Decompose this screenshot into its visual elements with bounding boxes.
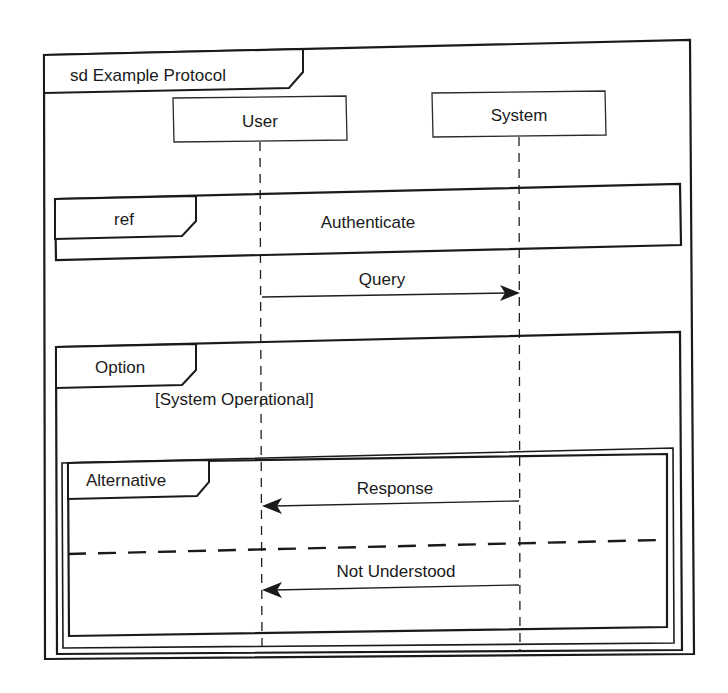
ref-fragment: ref Authenticate	[55, 184, 681, 260]
message-query-line	[262, 293, 508, 297]
lifeline-system-line	[519, 137, 520, 650]
sequence-diagram: sd Example Protocol User System ref Auth…	[0, 0, 728, 693]
message-not-understood-line	[274, 585, 519, 590]
message-response-label: Response	[357, 479, 434, 498]
message-response-line	[274, 501, 519, 506]
alternative-operator-label: Alternative	[86, 471, 166, 490]
message-query: Query	[262, 270, 520, 301]
ref-fragment-label: Authenticate	[321, 213, 416, 232]
ref-operator-label: ref	[114, 210, 134, 229]
lifeline-system-label: System	[491, 106, 548, 125]
lifeline-user: User	[173, 96, 347, 142]
message-not-understood-label: Not Understood	[336, 562, 455, 581]
message-response: Response	[262, 479, 519, 514]
sd-frame-title: sd Example Protocol	[70, 66, 226, 85]
option-guard-label: [System Operational]	[155, 390, 314, 409]
lifeline-user-label: User	[242, 112, 278, 131]
message-not-understood: Not Understood	[262, 562, 519, 598]
option-operator-label: Option	[95, 358, 145, 377]
message-query-label: Query	[359, 270, 406, 289]
alternative-operand-divider	[68, 540, 660, 554]
alternative-fragment: Alternative	[62, 448, 674, 648]
lifeline-system: System	[432, 91, 606, 137]
